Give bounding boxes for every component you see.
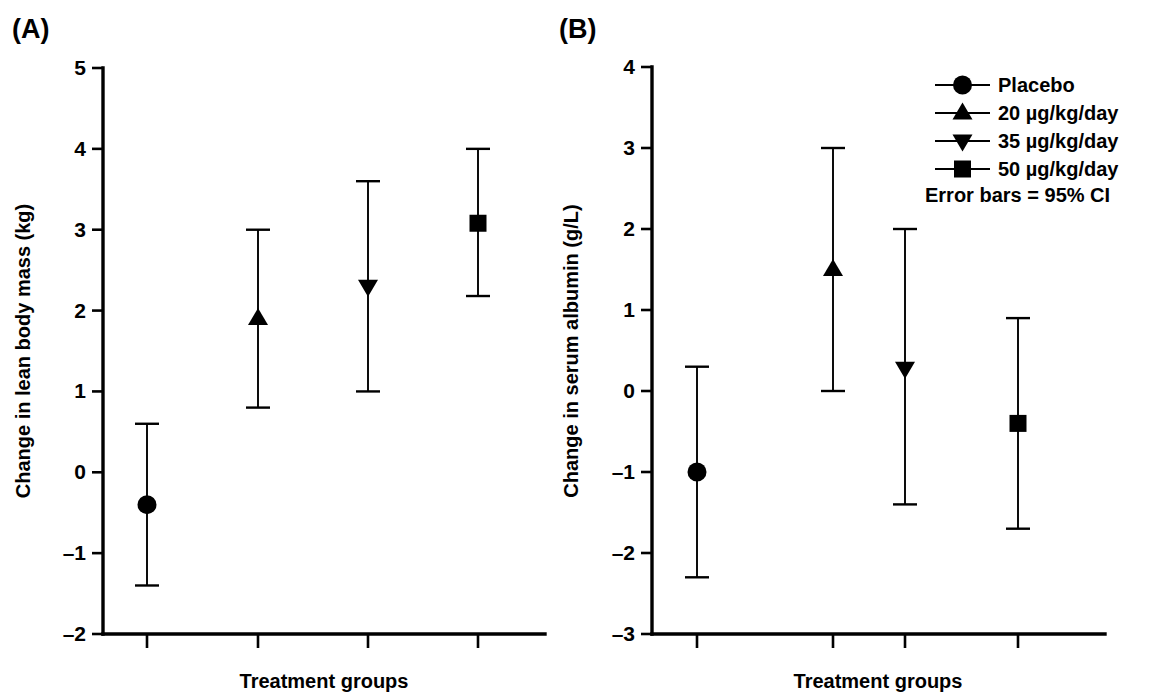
data-point-3	[893, 229, 917, 504]
data-point-1-marker-circle	[138, 495, 157, 514]
data-point-3-marker-triangle-down	[895, 362, 915, 379]
legend-item-2[interactable]: 20 µg/kg/day	[935, 102, 1119, 124]
legend-item-1-marker-circle	[953, 76, 972, 95]
y-tick-label: 3	[623, 136, 635, 159]
y-tick-label: 4	[623, 55, 635, 78]
data-point-4-marker-square	[1010, 415, 1027, 432]
legend-item-3[interactable]: 35 µg/kg/day	[935, 130, 1119, 152]
legend-item-label: Placebo	[998, 74, 1075, 96]
y-tick-label: 1	[623, 298, 635, 321]
legend-item-label: 35 µg/kg/day	[998, 130, 1119, 152]
y-tick-label: 1	[74, 379, 86, 402]
data-point-2-marker-triangle-up	[823, 259, 843, 276]
y-tick-label: 2	[74, 299, 86, 322]
data-point-2	[821, 148, 845, 391]
data-point-1-marker-circle	[688, 463, 707, 482]
figure-canvas: –2–1012345Treatment groupsChange in lean…	[0, 0, 1153, 698]
x-axis-title: Treatment groups	[240, 670, 409, 692]
y-tick-label: –2	[63, 622, 86, 645]
data-point-3-marker-triangle-down	[358, 280, 378, 297]
data-point-4-marker-square	[470, 215, 487, 232]
y-tick-label: –1	[612, 460, 636, 483]
y-tick-label: 5	[74, 56, 86, 79]
y-tick-label: –2	[612, 541, 635, 564]
y-axis-title: Change in serum albumin (g/L)	[560, 204, 582, 497]
legend-item-2-marker-triangle-up	[953, 102, 973, 119]
panel-a-plot: –2–1012345Treatment groupsChange in lean…	[12, 56, 545, 692]
data-point-1	[685, 367, 709, 578]
y-tick-label: 4	[74, 137, 86, 160]
legend-item-label: 50 µg/kg/day	[998, 158, 1119, 180]
data-point-4	[466, 149, 490, 296]
y-axis-title: Change in lean body mass (kg)	[12, 204, 34, 499]
chart-legend: Placebo20 µg/kg/day35 µg/kg/day50 µg/kg/…	[925, 74, 1119, 206]
y-tick-label: 0	[74, 460, 86, 483]
y-tick-label: 0	[623, 379, 635, 402]
legend-item-label: 20 µg/kg/day	[998, 102, 1119, 124]
y-tick-label: –1	[63, 541, 87, 564]
legend-note: Error bars = 95% CI	[925, 184, 1110, 206]
legend-item-4-marker-square	[954, 161, 971, 178]
y-tick-label: –3	[612, 622, 635, 645]
y-tick-label: 3	[74, 218, 86, 241]
data-point-3	[356, 181, 380, 391]
data-point-2	[246, 230, 270, 408]
data-point-1	[135, 424, 159, 586]
legend-item-1[interactable]: Placebo	[935, 74, 1075, 96]
legend-item-4[interactable]: 50 µg/kg/day	[935, 158, 1119, 180]
y-tick-label: 2	[623, 217, 635, 240]
x-axis-title: Treatment groups	[794, 670, 963, 692]
data-point-2-marker-triangle-up	[248, 308, 268, 325]
legend-item-3-marker-triangle-down	[953, 135, 973, 152]
figure-root: (A) (B) –2–1012345Treatment groupsChange…	[0, 0, 1153, 698]
data-point-4	[1006, 318, 1030, 529]
